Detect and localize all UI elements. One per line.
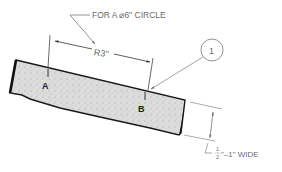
balloon-leader	[151, 57, 203, 89]
dimension-line-right	[114, 54, 150, 62]
width-dimension: 1 2 "–1" WIDE	[184, 102, 259, 160]
width-extension-top	[190, 102, 222, 109]
item-balloon: 1	[151, 39, 223, 89]
balloon-number: 1	[209, 46, 214, 56]
circle-callout: FOR A ⌀6" CIRCLE	[70, 10, 166, 44]
strip-body	[10, 60, 185, 135]
callout-text: FOR A ⌀6" CIRCLE	[92, 10, 166, 20]
dimension-line-left	[55, 41, 92, 49]
width-fraction-den: 2	[216, 154, 219, 160]
diagram-canvas: R3" FOR A ⌀6" CIRCLE A B 1 1 2 "–1" WIDE	[0, 0, 282, 172]
radius-label: R3"	[93, 47, 109, 59]
width-fraction-num: 1	[216, 146, 219, 152]
point-b-label: B	[138, 104, 145, 114]
extension-line-a	[48, 35, 50, 68]
width-dimension-line	[210, 112, 213, 138]
extension-line-b	[148, 58, 153, 90]
width-leader	[205, 143, 212, 153]
abrasive-strip	[10, 60, 185, 135]
point-a-label: A	[42, 81, 49, 91]
width-label: "–1" WIDE	[221, 150, 259, 159]
